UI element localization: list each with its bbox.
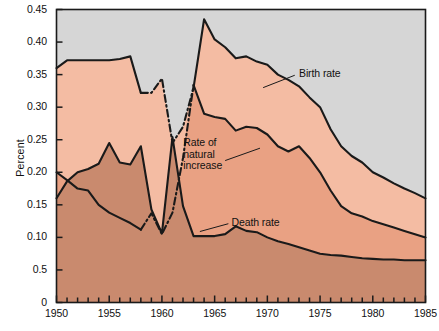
death-rate-label: Death rate [232,217,280,229]
y-tick-label: 0.5 [3,263,47,275]
chart-figure: Percent 00.50.100.150.200.250.300.350.40… [0,0,439,331]
x-tick-label: 1950 [37,307,77,319]
x-tick-label: 1960 [142,307,182,319]
x-tick-label: 1975 [300,307,340,319]
y-tick-label: 0.45 [3,3,47,15]
rate-of-natural-increase-label: Rate of natural increase [183,137,222,172]
y-tick-label: 0.40 [3,35,47,47]
y-tick-label: 0.30 [3,100,47,112]
x-tick-label: 1955 [89,307,129,319]
y-tick-label: 0.25 [3,133,47,145]
y-tick-label: 0.35 [3,68,47,80]
x-tick-label: 1970 [247,307,287,319]
x-tick-label: 1965 [195,307,235,319]
x-tick-label: 1985 [406,307,439,319]
y-tick-label: 0.20 [3,165,47,177]
y-tick-label: 0.15 [3,198,47,210]
birth-rate-label: Birth rate [299,68,341,80]
x-tick-label: 1980 [353,307,393,319]
y-tick-label: 0.10 [3,230,47,242]
